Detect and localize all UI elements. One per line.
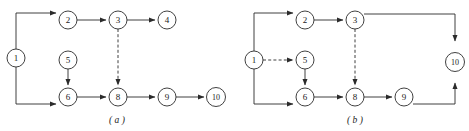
node-a-10-label: 10: [212, 93, 220, 102]
node-a-4-label: 4: [165, 15, 170, 25]
node-a-1[interactable]: 1: [7, 49, 25, 67]
node-b-10[interactable]: 10: [446, 53, 465, 72]
node-b-6-label: 6: [303, 92, 308, 102]
edge-b-1-2: [254, 13, 293, 51]
node-a-6[interactable]: 6: [59, 88, 77, 106]
node-a-2-label: 2: [66, 15, 71, 25]
node-b-8[interactable]: 8: [346, 88, 364, 106]
network-diagram-canvas: 1 2 3 4 5: [0, 0, 469, 131]
node-b-5-label: 5: [303, 55, 308, 65]
node-a-9-label: 9: [165, 92, 170, 102]
node-b-3-label: 3: [353, 15, 358, 25]
node-a-3-label: 3: [116, 15, 121, 25]
node-a-5-label: 5: [66, 55, 71, 65]
node-b-3[interactable]: 3: [346, 11, 364, 29]
edge-a-1-2: [16, 13, 56, 49]
edge-a-1-6: [16, 67, 56, 104]
node-a-8[interactable]: 8: [109, 88, 127, 106]
node-a-4[interactable]: 4: [158, 11, 176, 29]
node-a-5[interactable]: 5: [59, 51, 77, 69]
node-b-2[interactable]: 2: [296, 11, 314, 29]
panel-a-edges: [16, 13, 204, 104]
node-b-2-label: 2: [303, 15, 308, 25]
edge-b-1-6: [254, 69, 293, 104]
node-a-1-label: 1: [14, 53, 19, 63]
node-b-9[interactable]: 9: [395, 88, 413, 106]
node-b-9-label: 9: [402, 92, 407, 102]
node-b-1-label: 1: [252, 55, 257, 65]
node-b-5[interactable]: 5: [296, 51, 314, 69]
panel-b: 1 2 3 5 6: [245, 11, 465, 126]
node-a-9[interactable]: 9: [158, 88, 176, 106]
node-b-6[interactable]: 6: [296, 88, 314, 106]
node-b-8-label: 8: [353, 92, 358, 102]
node-a-2[interactable]: 2: [59, 11, 77, 29]
panel-a-caption: ( a ): [109, 115, 125, 126]
node-a-6-label: 6: [66, 92, 71, 102]
node-a-3[interactable]: 3: [109, 11, 127, 29]
node-a-8-label: 8: [116, 92, 121, 102]
panel-b-nodes: 1 2 3 5 6: [245, 11, 465, 106]
panel-a: 1 2 3 4 5: [7, 11, 226, 126]
node-a-10[interactable]: 10: [207, 88, 226, 107]
network-diagram-figure: 1 2 3 4 5: [0, 0, 469, 131]
edge-b-3-10: [364, 14, 455, 41]
edge-b-9-10: [413, 83, 455, 104]
node-b-10-label: 10: [451, 58, 459, 67]
node-b-1[interactable]: 1: [245, 51, 263, 69]
panel-a-nodes: 1 2 3 4 5: [7, 11, 226, 107]
panel-b-caption: ( b ): [347, 115, 363, 126]
